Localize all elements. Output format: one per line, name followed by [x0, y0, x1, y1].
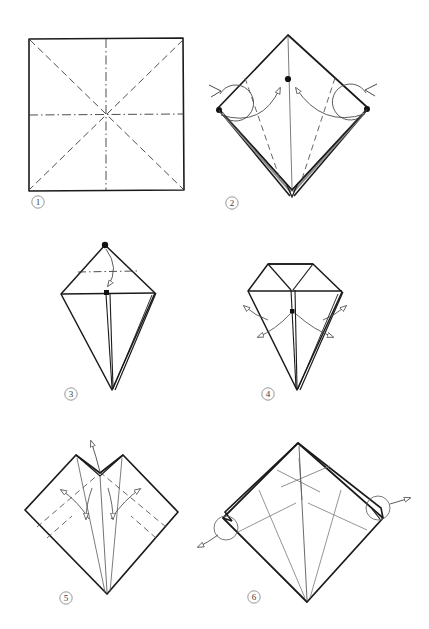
crease-side-left — [238, 503, 296, 532]
arrow-spread-right-down — [108, 488, 113, 519]
crease-horizontal-centre — [29, 114, 184, 115]
step-number: 4 — [266, 389, 271, 399]
crease-fold-down — [78, 271, 137, 272]
step-label-3: 3 — [65, 388, 77, 400]
kite4-flap-right-outer — [300, 292, 343, 390]
crease-petal-left — [245, 78, 281, 182]
pull-arrow-left — [198, 535, 218, 547]
kite4-fold-right — [293, 264, 313, 290]
step-2-panel: 2 — [209, 35, 377, 209]
arrow-open-lower-left — [258, 314, 290, 337]
step-number: 1 — [36, 197, 41, 207]
centre-spine — [288, 37, 292, 188]
pull-arrow-right — [390, 498, 410, 504]
kite-flap-right-inner — [113, 295, 152, 389]
step-6-panel: 6 — [198, 443, 410, 603]
crease-dashed-left — [37, 473, 100, 527]
centre-square-mark — [104, 290, 109, 295]
centre-spine — [299, 446, 307, 600]
step-label-2: 2 — [226, 197, 238, 209]
step-5-panel: 5 — [25, 441, 178, 604]
crease-side-right — [308, 503, 367, 530]
curved-arrow-fold-down — [106, 249, 114, 286]
kite4-flap-right-inner — [298, 294, 338, 389]
rotation-loop-left-arrowhead — [209, 85, 221, 97]
step-number: 2 — [230, 198, 235, 208]
arrow-open-lower-right — [296, 314, 333, 337]
step-number: 3 — [69, 389, 74, 399]
step-1-panel: 1 — [29, 38, 184, 208]
apex-dot — [102, 242, 108, 248]
inner-line-right — [110, 458, 122, 592]
origami-instruction-diagram: 1 — [0, 0, 429, 629]
centre-square-mark — [290, 309, 295, 314]
diagram-sheet: 1 — [0, 0, 429, 629]
centre-dot — [285, 76, 291, 82]
step-label-1: 1 — [32, 196, 44, 208]
crease-dashed-inner-left — [47, 516, 72, 538]
crease-dashed-inner-right — [131, 516, 156, 538]
step-3-panel: 3 — [61, 242, 156, 400]
step-number: 6 — [252, 592, 257, 602]
flap-edge-left-inner — [224, 115, 292, 190]
step-4-panel: 4 — [244, 264, 346, 400]
crease-petal-left — [259, 490, 305, 598]
rotation-loop-right-arrowhead — [365, 84, 377, 96]
step-label-4: 4 — [262, 388, 274, 400]
step-number: 5 — [64, 593, 69, 603]
diamond5-outline — [25, 455, 178, 594]
inner-line-left — [77, 458, 105, 592]
crease-petal-right — [301, 78, 335, 182]
step-label-6: 6 — [248, 591, 260, 603]
diamond-outline — [218, 35, 368, 190]
step-label-5: 5 — [60, 592, 72, 604]
kite-flap-right-outer — [115, 293, 156, 390]
kite4-fold-left — [268, 264, 291, 290]
crease-cross-a — [281, 466, 330, 487]
